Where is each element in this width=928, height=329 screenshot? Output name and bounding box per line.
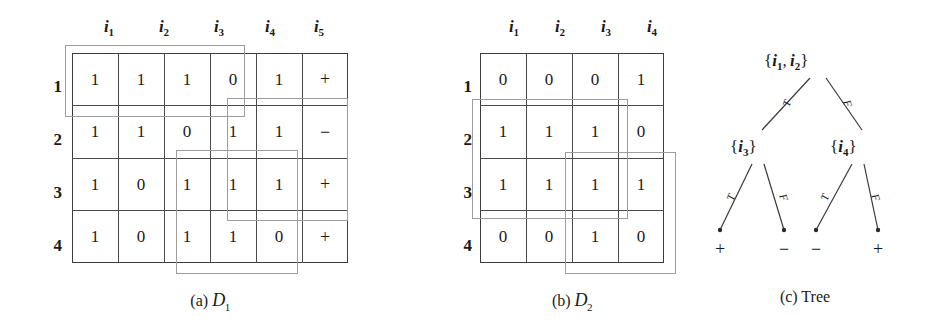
column-header-i2: i2 [539,18,581,38]
tree-leaf-positive-1: + [710,240,730,258]
table-cell: 1 [618,158,664,210]
panel-caption-b: (b) D2 [492,290,652,313]
row-label-1: 1 [450,78,472,95]
column-header-i3: i3 [585,18,627,38]
table-cell: 0 [572,53,618,105]
table-cell: 0 [618,105,664,158]
panel-dataset-d2: i1 i2 i3 i4 1 2 3 4 0 0 0 1 1 1 1 0 1 1 … [0,0,700,329]
table-cell: 0 [480,210,526,263]
tree-leaf-positive-2: + [868,240,888,258]
table-cell: 1 [526,105,572,158]
row-label-3: 3 [450,184,472,201]
tree-leaf-negative-2: − [806,240,826,258]
table-cell: 0 [526,210,572,263]
table-cell: 1 [618,53,664,105]
table-cell: 1 [572,158,618,210]
column-header-i4: i4 [631,18,673,38]
tree-node-i4[interactable]: {i4} [830,138,857,158]
table-cell: 1 [572,210,618,263]
table-cell: 0 [526,53,572,105]
panel-decision-tree: {i1, i2} {i3} {i4} T F T F T F + − − + (… [680,0,928,329]
table-cell: 1 [526,158,572,210]
table-cell: 1 [480,158,526,210]
tree-node-root-item2: i2 [790,51,800,70]
tree-edges [680,0,928,329]
tree-leaf-negative-1: − [774,240,794,258]
table-cell: 0 [480,53,526,105]
tree-node-root[interactable]: {i1, i2} [764,52,808,72]
tree-node-i3[interactable]: {i3} [730,138,757,158]
tree-node-root-item1: i1 [772,51,782,70]
panel-caption-c: (c) Tree [735,288,875,306]
column-header-i1: i1 [493,18,535,38]
row-label-2: 2 [450,131,472,148]
table-cell: 1 [572,105,618,158]
table-cell: 0 [618,210,664,263]
table-cell: 1 [480,105,526,158]
row-label-4: 4 [450,237,472,254]
